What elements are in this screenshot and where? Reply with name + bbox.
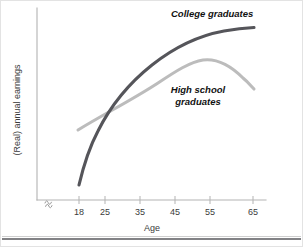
tick-label-35: 35 (135, 207, 145, 217)
x-axis-title: Age (144, 223, 160, 233)
series-label-college-graduates: College graduates (171, 8, 253, 19)
age-earnings-chart: 18 25 35 45 55 65 Age (Real) annual earn… (0, 0, 303, 247)
x-axis-tick-labels: 18 25 35 45 55 65 (74, 207, 258, 217)
series-line-college-graduates (79, 28, 254, 186)
tick-label-65: 65 (248, 207, 258, 217)
axis-break-icon (45, 201, 51, 205)
series-label-high-school-line2: graduates (174, 96, 220, 107)
series-label-high-school-line1: High school (171, 84, 226, 95)
chart-figure: 18 25 35 45 55 65 Age (Real) annual earn… (0, 0, 303, 247)
axis-break-icon-second (46, 204, 52, 208)
tick-label-45: 45 (170, 207, 180, 217)
tick-label-55: 55 (205, 207, 215, 217)
y-axis-title: (Real) annual earnings (12, 64, 22, 156)
tick-label-18: 18 (74, 207, 84, 217)
tick-label-25: 25 (100, 207, 110, 217)
